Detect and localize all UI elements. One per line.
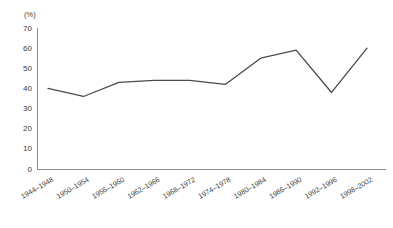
y-tick-label: 70	[23, 24, 32, 33]
x-tick-label: 1992–1996	[303, 175, 339, 201]
y-tick-label: 20	[23, 124, 32, 133]
y-tick-label: 30	[23, 104, 32, 113]
x-tick-label: 1986–1990	[267, 175, 303, 201]
x-tick-label: 1950–1954	[55, 175, 91, 201]
y-tick-label: 60	[23, 44, 32, 53]
x-tick-label: 1944–1948	[19, 175, 55, 201]
x-tick-label: 1980–1984	[232, 175, 268, 201]
chart-canvas: 010203040506070 1944–19481950–19541956–1…	[0, 0, 393, 228]
y-tick-label: 10	[23, 144, 32, 153]
y-tick-label-group: 010203040506070	[23, 24, 32, 174]
x-tick-label: 1998–2002	[338, 175, 374, 201]
y-axis-unit-label: (%)	[24, 10, 36, 19]
x-tick-label: 1968–1972	[161, 175, 197, 201]
x-tick-label-group: 1944–19481950–19541956–19601962–19661968…	[19, 175, 374, 201]
data-series-line	[48, 48, 367, 96]
x-tick-label: 1974–1978	[197, 175, 233, 201]
line-chart: 010203040506070 1944–19481950–19541956–1…	[0, 0, 393, 228]
x-tick-label: 1962–1966	[126, 175, 162, 201]
x-tick-label: 1956–1960	[90, 175, 126, 201]
y-tick-label: 0	[28, 165, 33, 174]
y-tick-label: 40	[23, 84, 32, 93]
y-tick-label: 50	[23, 64, 32, 73]
